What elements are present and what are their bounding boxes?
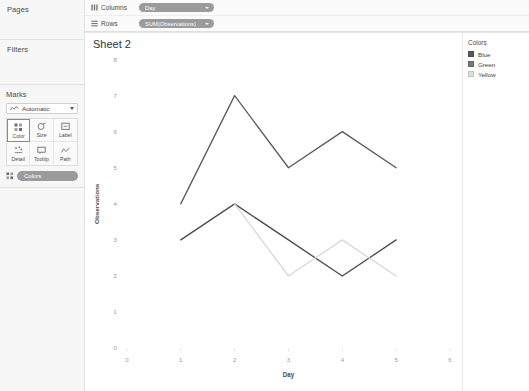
rows-shelf-label-group: Rows: [91, 20, 133, 27]
rows-shelf-label: Rows: [101, 20, 118, 27]
legend-swatch-icon: [468, 71, 474, 77]
y-axis-tick-label: 1: [114, 309, 118, 315]
marks-color-label: Color: [12, 133, 24, 139]
legend-swatch-icon: [468, 51, 474, 57]
detail-icon: [14, 146, 23, 155]
chevron-down-icon[interactable]: [205, 7, 209, 9]
marks-tooltip-label: Tooltip: [34, 156, 49, 162]
marks-buttons-grid: Color Size: [6, 118, 78, 166]
filters-shelf-title: Filters: [7, 45, 77, 54]
size-icon: [37, 122, 46, 131]
series-line-blue[interactable]: [181, 96, 396, 204]
chevron-down-icon: [70, 107, 74, 110]
y-axis-tick-label: 3: [114, 237, 118, 243]
marks-size-label: Size: [36, 132, 46, 138]
label-icon: [61, 122, 70, 131]
columns-shelf-label-group: Columns: [91, 4, 133, 11]
pages-shelf[interactable]: Pages: [0, 0, 84, 40]
legend-item-blue[interactable]: Blue: [468, 49, 524, 59]
y-axis-tick-label: 8: [114, 57, 118, 63]
color-legend-items: BlueGreenYellow: [468, 49, 524, 79]
left-sidebar: Pages Filters Marks Automatic: [0, 0, 85, 391]
x-axis-tick-label: 1: [179, 357, 183, 363]
main-area: Columns Day Rows SUM(Observat: [85, 0, 529, 391]
legend-item-yellow[interactable]: Yellow: [468, 69, 524, 79]
y-axis-tick-label: 2: [114, 273, 118, 279]
mark-type-dropdown[interactable]: Automatic: [6, 103, 78, 114]
line-chart-icon: [10, 105, 19, 112]
marks-size-button[interactable]: Size: [30, 119, 53, 142]
filters-shelf[interactable]: Filters: [0, 40, 84, 85]
legend-item-green[interactable]: Green: [468, 59, 524, 69]
columns-icon: [91, 4, 98, 11]
color-icon: [14, 123, 23, 132]
marks-card: Marks Automatic: [0, 85, 84, 188]
marks-color-encoding-row: Colors: [6, 171, 78, 181]
marks-tooltip-button[interactable]: Tooltip: [30, 142, 53, 165]
x-axis-tick-label: 3: [287, 357, 291, 363]
legend-swatch-icon: [468, 61, 474, 67]
rows-shelf[interactable]: Rows SUM(Observations): [85, 16, 529, 32]
columns-pill-day[interactable]: Day: [139, 3, 214, 13]
legend-item-label: Green: [478, 61, 495, 68]
x-axis-title: Day: [283, 371, 295, 378]
shelf-bar: Columns Day Rows SUM(Observat: [85, 0, 529, 33]
color-legend-title: Colors: [468, 39, 524, 46]
chevron-down-icon[interactable]: [205, 23, 209, 25]
y-axis-tick-label: 0: [114, 345, 118, 351]
rows-pill-text: SUM(Observations): [145, 21, 201, 27]
visualization-pane[interactable]: Sheet 2 012345678Observations0123456Day: [85, 33, 463, 391]
series-line-yellow[interactable]: [235, 204, 397, 276]
y-axis-tick-label: 6: [114, 129, 118, 135]
y-axis-tick-label: 4: [114, 201, 118, 207]
tooltip-icon: [37, 146, 46, 155]
y-axis-title: Observations: [93, 183, 100, 224]
x-axis-tick-label: 2: [233, 357, 237, 363]
rows-icon: [91, 20, 98, 27]
series-line-green[interactable]: [181, 204, 396, 276]
marks-card-title: Marks: [6, 90, 78, 99]
tableau-window: Pages Filters Marks Automatic: [0, 0, 529, 391]
color-legend: Colors BlueGreenYellow: [463, 33, 529, 391]
marks-detail-label: Detail: [12, 156, 25, 162]
view-container: Sheet 2 012345678Observations0123456Day …: [85, 33, 529, 391]
legend-item-label: Yellow: [478, 71, 496, 78]
marks-path-label: Path: [60, 156, 71, 162]
y-axis-tick-label: 5: [114, 165, 118, 171]
marks-label-label: Label: [59, 132, 72, 138]
marks-label-button[interactable]: Label: [54, 119, 77, 142]
x-axis-tick-label: 0: [125, 357, 129, 363]
x-axis-tick-label: 6: [448, 357, 452, 363]
marks-color-button[interactable]: Color: [7, 119, 30, 142]
x-axis-tick-label: 5: [395, 357, 399, 363]
sidebar-filler: [0, 188, 84, 391]
y-axis-tick-label: 7: [114, 93, 118, 99]
columns-shelf[interactable]: Columns Day: [85, 0, 529, 16]
line-chart[interactable]: 012345678Observations0123456Day: [85, 33, 462, 391]
legend-item-label: Blue: [478, 51, 490, 58]
columns-shelf-label: Columns: [101, 4, 127, 11]
color-icon: [6, 172, 14, 180]
marks-path-button[interactable]: Path: [54, 142, 77, 165]
mark-type-label: Automatic: [22, 105, 67, 112]
marks-detail-button[interactable]: Detail: [7, 142, 30, 165]
x-axis-tick-label: 4: [341, 357, 345, 363]
marks-colors-pill[interactable]: Colors: [17, 171, 78, 181]
pages-shelf-title: Pages: [7, 5, 77, 14]
rows-pill-sum-observations[interactable]: SUM(Observations): [139, 19, 214, 29]
path-icon: [61, 146, 70, 155]
columns-pill-text: Day: [145, 5, 201, 11]
